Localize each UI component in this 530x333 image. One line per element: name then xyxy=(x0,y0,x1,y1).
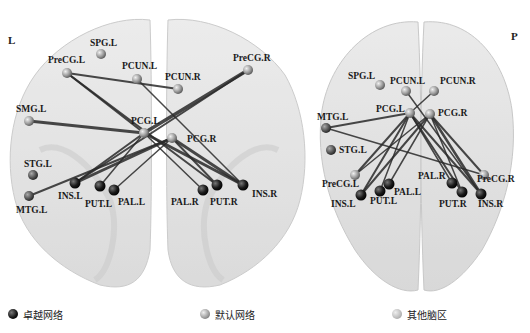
node-ins-r-icon xyxy=(476,189,487,200)
node-label: PUT.R xyxy=(210,197,238,207)
node-put-r-icon xyxy=(457,187,468,198)
other-region-icon xyxy=(392,309,402,319)
node-label: PreCG.R xyxy=(477,174,515,184)
panel-right-side-label: P xyxy=(511,30,518,42)
node-pcg-r-icon xyxy=(167,133,177,143)
legend-label: 卓越网络 xyxy=(23,307,63,322)
node-label: MTG.L xyxy=(16,205,47,215)
panel-left-side-label: L xyxy=(8,34,15,46)
node-label: INS.R xyxy=(478,199,503,209)
node-ins-r-icon xyxy=(238,180,249,191)
node-label: INS.L xyxy=(58,191,83,201)
node-label: PCG.L xyxy=(376,104,405,114)
node-label: PAL.R xyxy=(418,171,446,181)
node-label: MTG.L xyxy=(317,112,348,122)
legend-item-other: 其他脑区 xyxy=(392,306,447,322)
node-label: PreCG.L xyxy=(322,179,359,189)
node-label: PUT.R xyxy=(439,199,467,209)
node-label: INS.L xyxy=(331,199,356,209)
legend-item-default: 默认网络 xyxy=(200,306,255,322)
node-put-l-icon xyxy=(375,186,386,197)
legend-label: 默认网络 xyxy=(215,307,255,322)
node-ins-l-icon xyxy=(356,190,367,201)
node-label: STG.L xyxy=(24,159,52,169)
node-pal-l-icon xyxy=(109,185,120,196)
node-label: PCUN.L xyxy=(122,61,157,71)
node-label: PCG.R xyxy=(187,134,216,144)
node-label: PCUN.R xyxy=(165,72,201,82)
node-put-l-icon xyxy=(95,181,106,192)
node-pcg-l-icon xyxy=(405,108,415,118)
node-precg-r-icon xyxy=(243,65,253,75)
node-pcg-r-icon xyxy=(425,109,435,119)
node-mtg-l-icon xyxy=(321,123,331,133)
node-stg-l-icon xyxy=(28,170,38,180)
salience-network-icon xyxy=(8,309,18,319)
node-precg-l-icon xyxy=(62,68,72,78)
node-label: INS.R xyxy=(252,189,277,199)
node-label: PreCG.L xyxy=(48,55,85,65)
node-spg-l-icon xyxy=(375,80,385,90)
node-label: SPG.L xyxy=(348,71,375,81)
brain-connectivity-figure: SPG.LPreCG.LPCUN.LPCUN.RPreCG.RSMG.LPCG.… xyxy=(0,0,530,333)
node-pcun-l-icon xyxy=(132,74,142,84)
node-pal-r-icon xyxy=(198,185,209,196)
node-label: PUT.L xyxy=(85,199,112,209)
node-pcg-l-icon xyxy=(139,128,149,138)
node-mtg-l-icon xyxy=(24,191,34,201)
node-label: STG.L xyxy=(339,145,367,155)
axial-brain-outline xyxy=(320,22,513,291)
node-pcun-r-icon xyxy=(173,84,183,94)
node-pcun-l-icon xyxy=(401,86,411,96)
node-label: PCG.R xyxy=(438,108,467,118)
node-label: SMG.L xyxy=(16,104,46,114)
node-label: SPG.L xyxy=(90,38,117,48)
legend-label: 其他脑区 xyxy=(407,307,447,322)
node-label: PreCG.R xyxy=(233,53,271,63)
node-ins-l-icon xyxy=(70,178,81,189)
node-label: PCG.L xyxy=(131,116,160,126)
node-pal-r-icon xyxy=(447,178,458,189)
node-stg-l-icon xyxy=(326,145,336,155)
default-network-icon xyxy=(200,309,210,319)
node-spg-l-icon xyxy=(96,49,106,59)
node-pcun-r-icon xyxy=(429,86,439,96)
node-label: PUT.L xyxy=(370,196,397,206)
node-put-r-icon xyxy=(212,180,223,191)
node-pal-l-icon xyxy=(384,179,395,190)
node-label: PAL.L xyxy=(394,187,421,197)
node-label: PAL.L xyxy=(118,197,145,207)
legend-item-salience: 卓越网络 xyxy=(8,306,63,322)
node-label: PCUN.L xyxy=(390,76,425,86)
node-smg-l-icon xyxy=(24,116,34,126)
node-label: PAL.R xyxy=(171,197,199,207)
node-label: PCUN.R xyxy=(440,76,476,86)
